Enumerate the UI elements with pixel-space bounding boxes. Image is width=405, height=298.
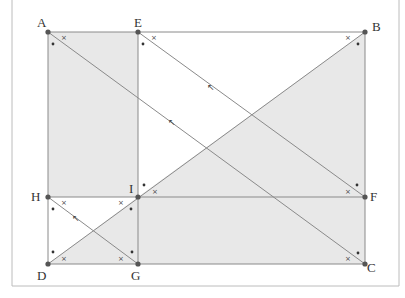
dot-icon	[52, 251, 55, 254]
point-i	[135, 194, 140, 199]
dot-icon	[357, 252, 360, 255]
label-a: A	[37, 15, 47, 30]
arrow-icon-ef: ↖	[207, 82, 215, 92]
arrow-icon-ac: ↖	[168, 117, 176, 127]
label-h: H	[31, 189, 40, 204]
cross-icon: ×	[345, 255, 351, 263]
cross-icon: ×	[61, 255, 67, 263]
cross-icon: ×	[61, 199, 67, 207]
cross-icon: ×	[118, 255, 124, 263]
point-a	[45, 29, 50, 34]
point-h	[45, 194, 50, 199]
point-g	[135, 261, 140, 266]
dot-icon	[356, 184, 359, 187]
dot-icon	[52, 43, 55, 46]
label-d: D	[37, 268, 46, 283]
point-e	[135, 29, 140, 34]
point-b	[362, 29, 367, 34]
label-e: E	[134, 15, 142, 30]
dot-icon	[130, 208, 133, 211]
label-c: C	[367, 260, 376, 275]
cross-icon: ×	[152, 188, 158, 196]
geometry-figure: ↖ ↖ ↖ × × × × × × × × × ×	[0, 0, 405, 298]
dot-icon	[142, 43, 145, 46]
cross-icon: ×	[345, 34, 351, 42]
label-i: I	[129, 181, 133, 196]
dot-icon	[131, 251, 134, 254]
dot-icon	[357, 43, 360, 46]
shaded-rectangle-ifcg	[138, 197, 365, 264]
dot-icon	[143, 184, 146, 187]
point-d	[45, 261, 50, 266]
label-b: B	[372, 19, 381, 34]
dot-icon	[52, 208, 55, 211]
cross-icon: ×	[345, 188, 351, 196]
cross-icon: ×	[151, 34, 157, 42]
arrow-icon-hg: ↖	[72, 213, 80, 223]
cross-icon: ×	[118, 199, 124, 207]
shaded-rectangle-aeih	[48, 32, 138, 197]
cross-icon: ×	[61, 34, 67, 42]
point-f	[362, 194, 367, 199]
label-g: G	[131, 268, 140, 283]
label-f: F	[370, 189, 377, 204]
